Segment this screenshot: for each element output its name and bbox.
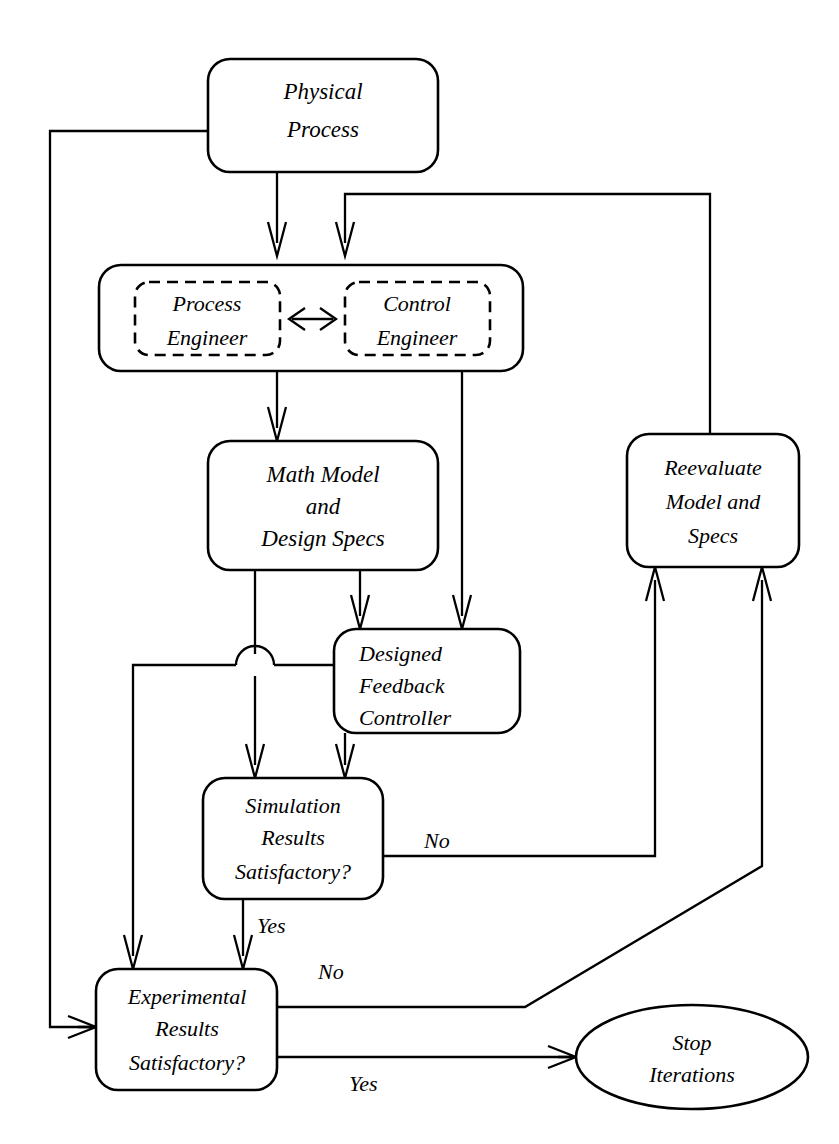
control-engineer-line-2: Engineer <box>376 325 458 350</box>
simulation-results-line-2: Results <box>260 825 325 850</box>
edge-label-simulation-no: No <box>423 828 450 853</box>
node-reevaluate[interactable]: Reevaluate Model and Specs <box>627 434 799 567</box>
node-experimental-results[interactable]: Experimental Results Satisfactory? <box>96 969 277 1090</box>
physical-process-shape <box>208 59 438 172</box>
process-engineer-line-1: Process <box>172 291 242 316</box>
stop-iterations-line-2: Iterations <box>648 1062 735 1087</box>
physical-process-line-2: Process <box>286 117 359 142</box>
node-simulation-results[interactable]: Simulation Results Satisfactory? <box>203 778 383 899</box>
experimental-results-line-3: Satisfactory? <box>129 1050 245 1075</box>
stop-iterations-shape <box>576 1005 808 1109</box>
node-physical-process[interactable]: Physical Process <box>208 59 438 172</box>
designed-controller-line-3: Controller <box>359 705 452 730</box>
reevaluate-line-1: Reevaluate <box>663 455 762 480</box>
experimental-results-line-2: Results <box>154 1016 219 1041</box>
control-engineer-line-1: Control <box>383 291 451 316</box>
node-stop-iterations[interactable]: Stop Iterations <box>576 1005 808 1109</box>
math-model-line-1: Math Model <box>265 462 379 487</box>
designed-controller-line-2: Feedback <box>358 673 446 698</box>
edge-label-experimental-yes: Yes <box>349 1071 378 1096</box>
node-designed-controller[interactable]: Designed Feedback Controller <box>334 629 520 733</box>
edge-label-simulation-yes: Yes <box>257 913 286 938</box>
math-model-line-2: and <box>306 494 341 519</box>
reevaluate-line-3: Specs <box>688 523 738 548</box>
flowchart-diagram: Physical Process Process Engineer Contro… <box>0 0 839 1144</box>
physical-process-line-1: Physical <box>282 79 362 104</box>
edge-label-experimental-no: No <box>317 959 344 984</box>
node-math-model[interactable]: Math Model and Design Specs <box>208 441 438 570</box>
reevaluate-line-2: Model and <box>665 489 762 514</box>
simulation-results-line-1: Simulation <box>245 793 340 818</box>
experimental-results-line-1: Experimental <box>127 984 247 1009</box>
stop-iterations-line-1: Stop <box>672 1030 711 1055</box>
process-engineer-line-2: Engineer <box>166 325 248 350</box>
designed-controller-line-1: Designed <box>358 641 443 666</box>
math-model-line-3: Design Specs <box>260 526 384 551</box>
flowchart-canvas: Physical Process Process Engineer Contro… <box>0 0 839 1144</box>
simulation-results-line-3: Satisfactory? <box>235 859 351 884</box>
